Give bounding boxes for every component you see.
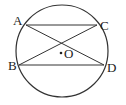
circle-o <box>16 5 108 97</box>
label-o: O <box>64 46 73 61</box>
label-d: D <box>107 60 116 75</box>
geometry-diagram: A C B D O <box>0 0 126 105</box>
segment-bc <box>19 25 97 65</box>
label-c: C <box>100 18 109 33</box>
center-point-o <box>60 52 63 55</box>
label-a: A <box>13 13 23 28</box>
label-b: B <box>8 58 17 73</box>
